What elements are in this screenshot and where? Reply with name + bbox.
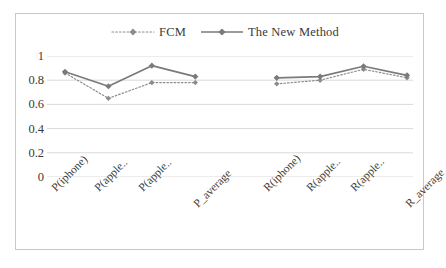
y-axis: 00.20.40.60.81 xyxy=(10,56,44,177)
y-tick-label: 0.2 xyxy=(14,145,44,160)
x-axis: P(iphone)P(apple..P(apple..P_averageR(ip… xyxy=(47,179,413,254)
legend-label-fcm: FCM xyxy=(159,25,186,40)
y-tick-label: 0.6 xyxy=(14,97,44,112)
legend-label-the-new-method: The New Method xyxy=(248,25,339,40)
legend-swatch-solid-diamond-icon xyxy=(200,27,244,37)
y-tick-label: 1 xyxy=(14,49,44,64)
series-the-new-method xyxy=(62,63,410,90)
chart-legend: FCM The New Method xyxy=(105,22,345,42)
y-tick-label: 0.4 xyxy=(14,121,44,136)
plot-svg xyxy=(47,56,413,177)
y-tick-label: 0 xyxy=(14,170,44,185)
plot-area xyxy=(47,56,413,177)
y-tick-label: 0.8 xyxy=(14,73,44,88)
legend-entry-fcm: FCM xyxy=(111,25,186,40)
legend-swatch-dotted-diamond-icon xyxy=(111,27,155,37)
legend-entry-the-new-method: The New Method xyxy=(200,25,339,40)
gridlines xyxy=(47,56,413,177)
